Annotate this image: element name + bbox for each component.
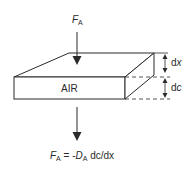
dc-dimension-arrow — [163, 78, 168, 98]
outgoing-flux-arrow — [73, 107, 82, 141]
eq-lhs-subscript: A — [56, 155, 61, 162]
flux-subscript: A — [78, 19, 83, 26]
thickness-var: x — [177, 57, 182, 68]
conc-var: c — [177, 82, 182, 93]
concentration-label: dc — [171, 83, 182, 93]
eq-coef-symbol: D — [76, 150, 83, 161]
dx-dimension-arrow — [163, 54, 168, 73]
thickness-label: dx — [171, 58, 182, 68]
slab-label: AIR — [61, 84, 78, 94]
eq-coef-subscript: A — [83, 155, 88, 162]
eq-equals: = - — [61, 150, 76, 161]
flux-equation: FA = -DA dc/dx — [50, 151, 114, 161]
incoming-flux-label: FA — [72, 15, 83, 25]
eq-rest: dc/dx — [87, 150, 114, 161]
